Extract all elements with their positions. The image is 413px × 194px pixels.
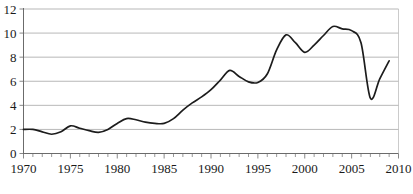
y-axis-ticks: [20, 9, 24, 154]
x-tick-label-2010: 2010: [386, 161, 412, 176]
x-tick-label-2000: 2000: [292, 161, 318, 176]
x-tick-label-2005: 2005: [339, 161, 365, 176]
x-axis-ticks: [24, 154, 399, 159]
y-tick-label-2: 2: [10, 122, 17, 137]
y-tick-label-10: 10: [4, 26, 17, 41]
x-tick-label-1985: 1985: [151, 161, 177, 176]
line-chart: 024681012 197019751980198519901995200020…: [0, 0, 413, 194]
y-axis-tick-labels: 024681012: [4, 2, 18, 162]
x-tick-label-1990: 1990: [198, 161, 224, 176]
gridlines: [24, 9, 399, 129]
x-tick-label-1980: 1980: [104, 161, 130, 176]
chart-container: 024681012 197019751980198519901995200020…: [0, 0, 413, 194]
x-tick-label-1970: 1970: [11, 161, 37, 176]
caption-strip: [0, 185, 413, 194]
x-tick-label-1975: 1975: [57, 161, 83, 176]
data-series-line: [24, 26, 390, 134]
y-tick-label-12: 12: [4, 2, 17, 17]
y-tick-label-4: 4: [10, 98, 17, 113]
y-tick-label-6: 6: [10, 74, 17, 89]
y-tick-label-0: 0: [10, 146, 17, 161]
x-tick-label-1995: 1995: [245, 161, 271, 176]
y-tick-label-8: 8: [10, 50, 17, 65]
x-axis-tick-labels: 197019751980198519901995200020052010: [11, 161, 412, 176]
